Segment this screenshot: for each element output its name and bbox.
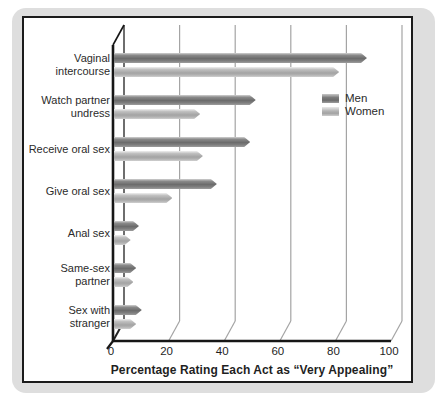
category-label-line: Watch partner [24, 94, 110, 107]
bar-women-2 [114, 109, 200, 119]
bar-men-1 [114, 53, 367, 63]
axis-top-diagonal [113, 25, 124, 45]
category-label-line: Anal sex [24, 227, 110, 240]
category-label-line: Same-sex [24, 262, 110, 275]
category-label-line: Vaginal [24, 52, 110, 65]
x-tick-label-20: 20 [147, 345, 187, 357]
category-label-line: partner [24, 275, 110, 288]
x-axis-title: Percentage Rating Each Act as “Very Appe… [62, 363, 441, 377]
category-label-2: Watch partnerundress [24, 94, 110, 120]
category-label-5: Anal sex [24, 227, 110, 240]
category-label-line: stranger [24, 317, 110, 330]
bar-women-4 [114, 193, 172, 203]
x-tick-label-60: 60 [258, 345, 298, 357]
floor-diagonal-40 [224, 321, 235, 341]
category-label-7: Sex withstranger [24, 304, 110, 330]
category-label-line: Give oral sex [24, 185, 110, 198]
legend-label-men: Men [345, 92, 367, 105]
legend-label-women: Women [345, 105, 384, 118]
category-label-line: undress [24, 107, 110, 120]
bar-men-3 [114, 137, 250, 147]
x-tick-label-100: 100 [369, 345, 409, 357]
floor-diagonal-20 [169, 321, 180, 341]
legend: Men Women [322, 92, 384, 118]
legend-row-women: Women [322, 105, 384, 118]
x-tick-label-80: 80 [313, 345, 353, 357]
x-tick-label-0: 0 [91, 345, 131, 357]
women-swatch-icon [322, 107, 339, 116]
bar-women-3 [114, 151, 203, 161]
bar-men-2 [114, 95, 256, 105]
floor-diagonal-60 [280, 321, 291, 341]
category-label-line: intercourse [24, 65, 110, 78]
category-label-3: Receive oral sex [24, 143, 110, 156]
category-label-line: Receive oral sex [24, 143, 110, 156]
category-label-4: Give oral sex [24, 185, 110, 198]
bar-women-1 [114, 67, 339, 77]
floor-diagonal-100 [391, 321, 402, 341]
category-label-line: Sex with [24, 304, 110, 317]
floor-diagonal-80 [335, 321, 346, 341]
men-swatch-icon [322, 94, 339, 103]
legend-row-men: Men [322, 92, 384, 105]
category-label-6: Same-sexpartner [24, 262, 110, 288]
x-tick-label-40: 40 [202, 345, 242, 357]
category-label-1: Vaginalintercourse [24, 52, 110, 78]
bar-men-4 [114, 179, 217, 189]
plot-area: Percentage Rating Each Act as “Very Appe… [24, 18, 411, 381]
chart-panel: Percentage Rating Each Act as “Very Appe… [22, 16, 413, 383]
